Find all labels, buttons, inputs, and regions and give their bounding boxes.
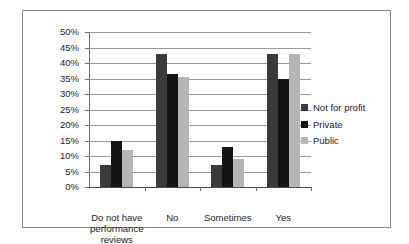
legend-swatch-icon [301, 104, 308, 111]
legend-label: Not for profit [313, 103, 365, 113]
x-tick-mark [311, 187, 312, 191]
y-tick-label: 25% [37, 105, 79, 115]
x-category-label-line: reviews [81, 234, 153, 244]
y-tick-label: 50% [37, 27, 79, 37]
bar [278, 79, 289, 188]
bar [211, 165, 222, 187]
y-tick-label: 5% [37, 167, 79, 177]
bar-group [89, 32, 145, 187]
bar [156, 54, 167, 187]
y-tick-label: 10% [37, 151, 79, 161]
y-tick-label: 45% [37, 43, 79, 53]
bar [100, 165, 111, 187]
y-tick-label: 35% [37, 74, 79, 84]
bar [222, 147, 233, 187]
bar [111, 141, 122, 188]
legend-label: Public [313, 136, 339, 146]
legend-item[interactable]: Not for profit [301, 103, 365, 113]
x-category-label: Yes [248, 212, 320, 223]
legend-swatch-icon [301, 137, 308, 144]
y-tick-label: 30% [37, 89, 79, 99]
bar [167, 74, 178, 187]
y-tick-label: 15% [37, 136, 79, 146]
chart-frame: 50%45%40%35%30%25%20%15%10%5%0% Do not h… [22, 10, 391, 228]
y-tick-mark [85, 187, 89, 188]
chart-legend: Not for profitPrivatePublic [301, 103, 365, 153]
x-category-label-line: Yes [248, 212, 320, 223]
bar [267, 54, 278, 187]
legend-item[interactable]: Private [301, 120, 365, 130]
x-tick-mark [200, 187, 201, 191]
y-tick-label: 40% [37, 58, 79, 68]
bar [289, 54, 300, 187]
bar-group [200, 32, 256, 187]
y-tick-label: 0% [37, 182, 79, 192]
bar [178, 77, 189, 187]
legend-item[interactable]: Public [301, 136, 365, 146]
legend-label: Private [313, 120, 343, 130]
bar-group [145, 32, 201, 187]
plot-area: 50%45%40%35%30%25%20%15%10%5%0% Do not h… [89, 32, 311, 188]
bar [233, 159, 244, 187]
bar [122, 150, 133, 187]
x-category-label-line: performance [81, 223, 153, 234]
legend-swatch-icon [301, 121, 308, 128]
x-tick-mark [145, 187, 146, 191]
y-tick-label: 20% [37, 120, 79, 130]
x-tick-mark [256, 187, 257, 191]
